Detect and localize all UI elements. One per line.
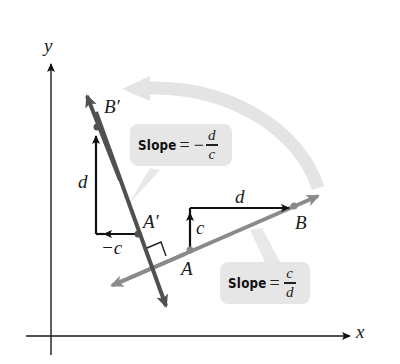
callout-original-slope: Slope = c d [220,262,310,304]
point-B-prime [94,124,101,131]
negative-sign: − [194,135,204,156]
slope-word: Slope [228,275,267,291]
equals-sign: = [180,135,190,156]
y-axis-label: y [44,36,52,55]
numerator: d [208,128,216,144]
callout-pointer-original [250,228,280,262]
perpendicular-slopes-diagram: y x A B A′ B′ d c −c d Slope = − d c Slo… [0,0,400,364]
label-run-d: d [235,187,245,206]
x-axis-label: x [356,322,364,341]
fraction-d-over-c: d c [206,128,218,163]
point-B [291,203,298,210]
denominator: d [286,285,294,301]
equals-sign: = [270,273,280,294]
label-B: B [295,213,307,232]
slope-word: Slope [138,137,177,153]
right-angle-marker [147,242,166,256]
label-A-prime: A′ [143,212,159,231]
label-rise-c: c [196,218,204,237]
callout-rotated-slope: Slope = − d c [130,124,232,166]
numerator: c [286,266,293,282]
callout-pointer-rotated [128,168,160,205]
denominator: c [209,147,216,163]
coordinate-axes [26,64,350,355]
label-B-prime: B′ [104,97,120,116]
label-A: A [181,259,193,278]
label-run-neg-c: −c [101,238,122,257]
fraction-c-over-d: c d [284,266,296,301]
point-A-prime [135,231,142,238]
point-A [187,247,194,254]
label-rise-d: d [78,172,88,191]
